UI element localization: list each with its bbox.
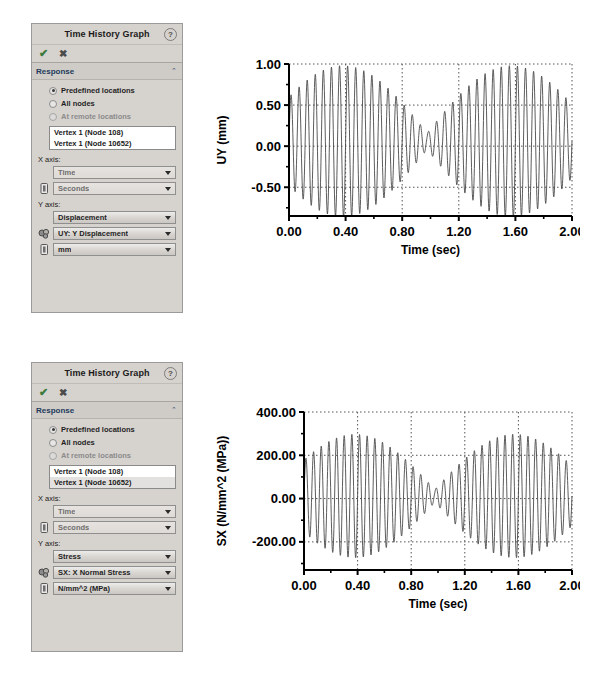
svg-text:0.40: 0.40 bbox=[345, 578, 370, 593]
y-component-select[interactable]: UY: Y Displacement bbox=[53, 227, 176, 240]
location-listbox[interactable]: Vertex 1 (Node 108) Vertex 1 (Node 10652… bbox=[49, 126, 176, 150]
y-quantity-select[interactable]: Stress bbox=[53, 550, 176, 563]
confirm-button[interactable]: ✔ bbox=[39, 387, 48, 398]
radio-label: All nodes bbox=[61, 438, 95, 447]
unit-icon bbox=[38, 183, 50, 195]
chevron-down-icon[interactable] bbox=[165, 232, 171, 236]
chevron-down-icon[interactable] bbox=[165, 216, 171, 220]
list-item[interactable]: Vertex 1 (Node 108) bbox=[50, 466, 175, 477]
property-panel-stress: Time History Graph ? ✔ ✖ Response ⌃ Pred… bbox=[31, 362, 183, 652]
radio-all-nodes[interactable]: All nodes bbox=[38, 97, 176, 110]
svg-text:1.60: 1.60 bbox=[503, 224, 528, 239]
unit-icon bbox=[38, 522, 50, 534]
svg-text:1.00: 1.00 bbox=[256, 57, 281, 72]
section-header-response[interactable]: Response ⌃ bbox=[32, 402, 182, 419]
y-quantity-select[interactable]: Displacement bbox=[53, 211, 176, 224]
time-history-chart-stress: -200.000.00200.00400.000.000.400.801.201… bbox=[214, 392, 580, 628]
svg-text:UY (mm): UY (mm) bbox=[215, 115, 229, 164]
select-value: UY: Y Displacement bbox=[54, 229, 128, 238]
select-value: Time bbox=[54, 168, 75, 177]
chevron-down-icon[interactable] bbox=[165, 571, 171, 575]
svg-text:Time (sec): Time (sec) bbox=[408, 597, 467, 611]
x-quantity-row: Time bbox=[38, 166, 176, 179]
panel-titlebar: Time History Graph ? bbox=[32, 363, 182, 384]
list-item[interactable]: Vertex 1 (Node 10652) bbox=[50, 138, 175, 149]
cancel-button[interactable]: ✖ bbox=[59, 388, 67, 398]
x-unit-select[interactable]: Seconds bbox=[53, 521, 176, 534]
x-unit-select[interactable]: Seconds bbox=[53, 182, 176, 195]
svg-text:1.20: 1.20 bbox=[452, 578, 477, 593]
y-unit-row: N/mm^2 (MPa) bbox=[38, 582, 176, 595]
y-unit-select[interactable]: N/mm^2 (MPa) bbox=[53, 582, 176, 595]
radio-all-nodes[interactable]: All nodes bbox=[38, 436, 176, 449]
x-unit-row: Seconds bbox=[38, 182, 176, 195]
select-value: Seconds bbox=[54, 523, 89, 532]
svg-text:200.00: 200.00 bbox=[256, 448, 296, 463]
help-icon[interactable]: ? bbox=[164, 28, 177, 41]
y-axis-group-label: Y axis: bbox=[38, 539, 176, 548]
chevron-down-icon[interactable] bbox=[165, 526, 171, 530]
help-icon[interactable]: ? bbox=[164, 367, 177, 380]
radio-label: At remote locations bbox=[61, 112, 131, 121]
list-item[interactable]: Vertex 1 (Node 10652) bbox=[50, 477, 175, 488]
unit-icon bbox=[38, 583, 50, 595]
radio-predefined-locations[interactable]: Predefined locations bbox=[38, 423, 176, 436]
y-unit-select[interactable]: mm bbox=[53, 243, 176, 256]
chevron-down-icon[interactable] bbox=[165, 587, 171, 591]
chevron-up-icon[interactable]: ⌃ bbox=[171, 67, 177, 75]
confirm-button[interactable]: ✔ bbox=[39, 48, 48, 59]
svg-text:2.00: 2.00 bbox=[559, 578, 580, 593]
y-quantity-row: Displacement bbox=[38, 211, 176, 224]
page-title: Time History Graph bbox=[64, 29, 149, 39]
y-axis-group-label: Y axis: bbox=[38, 200, 176, 209]
select-value: N/mm^2 (MPa) bbox=[54, 584, 110, 593]
chevron-up-icon[interactable]: ⌃ bbox=[171, 406, 177, 414]
chevron-down-icon[interactable] bbox=[165, 555, 171, 559]
svg-text:400.00: 400.00 bbox=[256, 405, 296, 420]
radio-at-remote-locations: At remote locations bbox=[38, 110, 176, 123]
svg-text:1.60: 1.60 bbox=[506, 578, 531, 593]
x-axis-group-label: X axis: bbox=[38, 155, 176, 164]
list-item[interactable]: Vertex 1 (Node 108) bbox=[50, 127, 175, 138]
svg-text:0.00: 0.00 bbox=[271, 491, 296, 506]
chevron-down-icon[interactable] bbox=[165, 248, 171, 252]
svg-text:-0.50: -0.50 bbox=[251, 180, 281, 195]
svg-text:0.00: 0.00 bbox=[256, 139, 281, 154]
chevron-down-icon[interactable] bbox=[165, 510, 171, 514]
svg-text:0.40: 0.40 bbox=[333, 224, 358, 239]
svg-text:Time (sec): Time (sec) bbox=[401, 243, 460, 257]
select-value: Seconds bbox=[54, 184, 89, 193]
x-unit-row: Seconds bbox=[38, 521, 176, 534]
panel-body: Predefined locations All nodes At remote… bbox=[32, 419, 182, 604]
y-component-row: SX: X Normal Stress bbox=[38, 566, 176, 579]
radio-icon bbox=[49, 439, 57, 447]
x-quantity-select[interactable]: Time bbox=[53, 166, 176, 179]
x-axis-group-label: X axis: bbox=[38, 494, 176, 503]
time-history-chart-displacement: -0.500.000.501.000.000.400.801.201.602.0… bbox=[214, 48, 580, 273]
select-value: SX: X Normal Stress bbox=[54, 568, 131, 577]
radio-label: All nodes bbox=[61, 99, 95, 108]
select-value: mm bbox=[54, 245, 71, 254]
y-component-select[interactable]: SX: X Normal Stress bbox=[53, 566, 176, 579]
location-listbox[interactable]: Vertex 1 (Node 108) Vertex 1 (Node 10652… bbox=[49, 465, 176, 489]
cancel-button[interactable]: ✖ bbox=[59, 49, 67, 59]
svg-text:SX (N/mm^2 (MPa)): SX (N/mm^2 (MPa)) bbox=[215, 436, 229, 546]
radio-predefined-locations[interactable]: Predefined locations bbox=[38, 84, 176, 97]
property-panel-displacement: Time History Graph ? ✔ ✖ Response ⌃ Pred… bbox=[31, 23, 183, 313]
svg-text:-200.00: -200.00 bbox=[252, 534, 296, 549]
select-value: Time bbox=[54, 507, 75, 516]
x-quantity-row: Time bbox=[38, 505, 176, 518]
section-header-response[interactable]: Response ⌃ bbox=[32, 63, 182, 80]
radio-label: Predefined locations bbox=[61, 425, 135, 434]
section-title: Response bbox=[36, 67, 74, 76]
x-quantity-select[interactable]: Time bbox=[53, 505, 176, 518]
select-value: Stress bbox=[54, 552, 81, 561]
chevron-down-icon[interactable] bbox=[165, 171, 171, 175]
panel-titlebar: Time History Graph ? bbox=[32, 24, 182, 45]
section-title: Response bbox=[36, 406, 74, 415]
radio-icon bbox=[49, 426, 57, 434]
svg-text:2.00: 2.00 bbox=[559, 224, 580, 239]
chevron-down-icon[interactable] bbox=[165, 187, 171, 191]
svg-text:1.20: 1.20 bbox=[446, 224, 471, 239]
svg-text:0.50: 0.50 bbox=[256, 98, 281, 113]
